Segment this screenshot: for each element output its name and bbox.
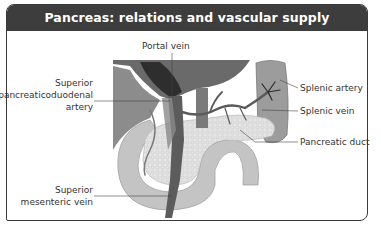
aorta-shape — [196, 88, 208, 128]
label-spda-line3: artery — [66, 102, 93, 113]
label-splenic-vein: Splenic vein — [300, 106, 355, 117]
label-smv-line2: mesenteric vein — [21, 197, 93, 208]
label-spda-line1: Superior — [55, 78, 93, 89]
label-splenic-artery: Splenic artery — [300, 83, 363, 94]
label-smv-line1: Superior — [55, 185, 93, 196]
label-pancreatic-duct: Pancreatic duct — [300, 137, 369, 148]
label-spda-line2: pancreaticoduodenal — [0, 90, 93, 101]
label-portal-vein: Portal vein — [142, 41, 190, 52]
